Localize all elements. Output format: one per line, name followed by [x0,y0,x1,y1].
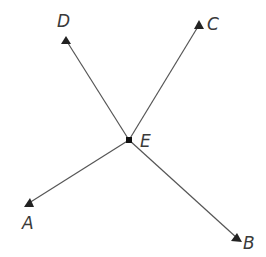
label-b: B [243,233,255,253]
diagram-canvas: A B C D E [0,0,266,257]
arrowhead-d-icon [61,36,71,44]
arrowhead-a-icon [24,198,34,207]
arrowhead-c-icon [194,20,204,29]
label-a: A [21,213,34,233]
label-d: D [57,11,70,31]
label-e: E [140,131,151,151]
center-point-e [126,137,132,143]
ray-ed [66,40,129,140]
ray-eb [129,140,237,238]
ray-ea [29,140,129,203]
label-c: C [207,14,219,34]
ray-ec [129,25,199,140]
